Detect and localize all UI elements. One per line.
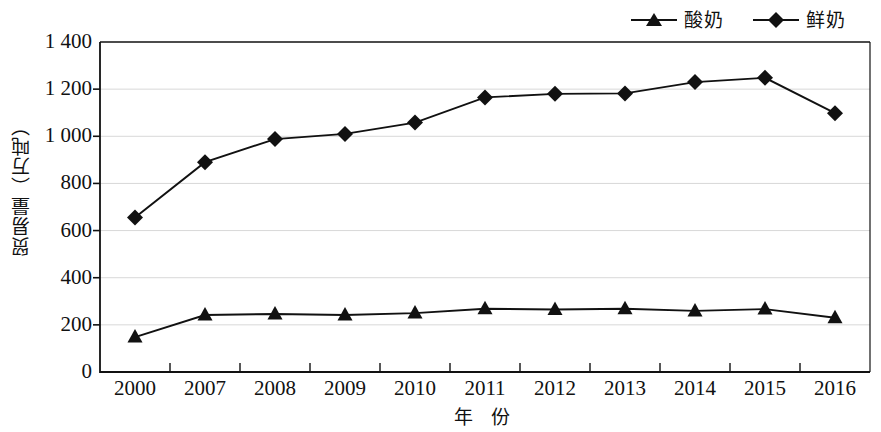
- data-point-marker[interactable]: [477, 89, 493, 105]
- plot-area: [0, 0, 881, 432]
- series-fresh-milk: [127, 70, 843, 226]
- x-axis-ticks: [170, 363, 800, 372]
- data-point-marker[interactable]: [548, 301, 563, 315]
- data-point-marker[interactable]: [547, 86, 563, 102]
- gridlines: [100, 89, 870, 325]
- data-point-marker[interactable]: [827, 105, 843, 121]
- data-point-marker[interactable]: [618, 301, 633, 315]
- data-point-marker[interactable]: [267, 131, 283, 147]
- x-tick-label: 2015: [744, 378, 786, 399]
- data-point-marker[interactable]: [268, 306, 283, 320]
- x-tick-label: 2007: [184, 378, 226, 399]
- data-point-marker[interactable]: [757, 70, 773, 86]
- data-point-marker[interactable]: [338, 307, 353, 321]
- x-tick-label: 2010: [394, 378, 436, 399]
- x-tick-label: 2013: [604, 378, 646, 399]
- data-point-marker[interactable]: [688, 303, 703, 317]
- line-chart: 酸奶 鲜奶 贸易量（万吨） 02004006008001 0001 2001 4…: [0, 0, 881, 432]
- x-tick-label: 2012: [534, 378, 576, 399]
- x-tick-label: 2016: [814, 378, 856, 399]
- data-point-marker[interactable]: [687, 74, 703, 90]
- data-point-marker[interactable]: [407, 115, 423, 131]
- data-point-marker[interactable]: [337, 126, 353, 142]
- series-yogurt: [128, 301, 843, 343]
- y-axis-ticks: [93, 89, 100, 325]
- x-axis-title: 年 份: [100, 402, 870, 429]
- data-point-marker[interactable]: [198, 307, 213, 321]
- x-tick-label: 2000: [114, 378, 156, 399]
- data-point-marker[interactable]: [408, 305, 423, 319]
- x-tick-label: 2011: [464, 378, 505, 399]
- x-tick-label: 2014: [674, 378, 716, 399]
- data-point-marker[interactable]: [758, 301, 773, 315]
- x-tick-label: 2008: [254, 378, 296, 399]
- data-point-marker[interactable]: [617, 85, 633, 101]
- data-point-marker[interactable]: [478, 301, 493, 315]
- x-tick-label: 2009: [324, 378, 366, 399]
